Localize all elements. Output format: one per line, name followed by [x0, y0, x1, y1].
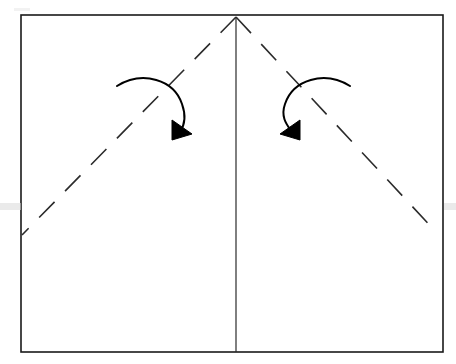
- paper-sheet: [21, 15, 443, 352]
- scan-artifact-right-band: [444, 203, 456, 210]
- scan-artifact-top-left: [14, 8, 30, 11]
- fold-diagram-canvas: [0, 0, 456, 364]
- scan-artifact-left-band: [0, 203, 21, 210]
- origami-fold-diagram: [0, 0, 456, 364]
